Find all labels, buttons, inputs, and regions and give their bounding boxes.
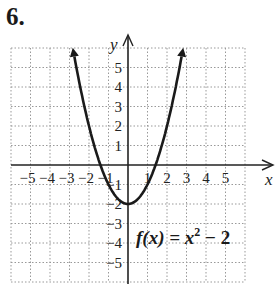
svg-text:4: 4 <box>202 170 210 186</box>
svg-text:−2: −2 <box>78 170 94 186</box>
svg-text:5: 5 <box>222 170 230 186</box>
svg-text:−5: −5 <box>106 255 122 271</box>
svg-text:5: 5 <box>115 60 123 76</box>
svg-text:2: 2 <box>163 170 171 186</box>
svg-text:4: 4 <box>115 79 123 95</box>
svg-text:1: 1 <box>115 138 123 154</box>
svg-text:−3: −3 <box>106 216 122 232</box>
svg-text:−4: −4 <box>39 170 55 186</box>
y-axis-label: y <box>108 35 118 54</box>
svg-text:3: 3 <box>115 99 123 115</box>
function-label: f(x) = x2 − 2 <box>136 225 230 249</box>
svg-text:−5: −5 <box>20 170 36 186</box>
x-axis-label: x <box>264 170 273 189</box>
svg-text:−4: −4 <box>106 235 122 251</box>
svg-text:−3: −3 <box>59 170 75 186</box>
svg-text:3: 3 <box>183 170 191 186</box>
svg-text:−2: −2 <box>106 196 122 212</box>
graph: xy −5−4−3−2−11234554321−1−2−3−4−5 f(x) =… <box>0 0 280 284</box>
svg-text:2: 2 <box>115 118 123 134</box>
